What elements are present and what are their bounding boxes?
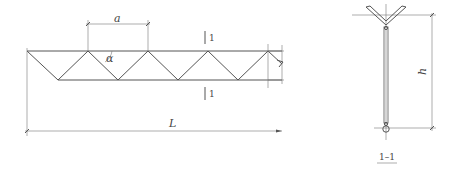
dimension-h: h xyxy=(416,13,434,131)
section-title: 1–1 xyxy=(379,152,395,162)
label-a: a xyxy=(114,12,121,25)
label-alpha: α xyxy=(106,52,114,65)
truss-elevation: a α 1 1 L xyxy=(25,12,284,136)
svg-text:1: 1 xyxy=(209,89,215,99)
web-members xyxy=(27,51,282,80)
section-1-1-view: h 1–1 xyxy=(352,4,436,163)
label-h: h xyxy=(416,68,429,75)
svg-text:1: 1 xyxy=(209,33,215,43)
label-L: L xyxy=(168,117,176,130)
angle-alpha: α xyxy=(105,51,114,65)
truss-diagram: a α 1 1 L xyxy=(0,0,457,177)
section-mark-1: 1 1 xyxy=(205,31,215,100)
dimension-a: a xyxy=(86,12,150,51)
dimension-L: L xyxy=(25,117,282,133)
